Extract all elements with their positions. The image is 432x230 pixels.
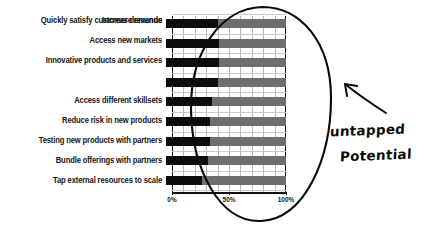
bar-segment-value — [166, 176, 202, 185]
bar-row — [172, 176, 286, 185]
annotation-text-line-2: Potential — [340, 146, 413, 165]
row-separator — [172, 92, 286, 93]
chart-figure: Increase revenue Access new markets Inno… — [0, 0, 432, 230]
row-separator — [172, 171, 286, 172]
category-label: Innovative products and services — [11, 56, 162, 65]
row-separator — [172, 151, 286, 152]
x-axis-tick-label: 100% — [278, 196, 294, 203]
bar-row — [172, 156, 286, 165]
bar-segment-value — [166, 117, 210, 126]
row-separator — [172, 34, 286, 35]
row-separator — [172, 73, 286, 74]
annotation-text-line-1: untapped — [330, 121, 406, 140]
plot-area — [172, 16, 286, 192]
row-separator — [172, 132, 286, 133]
bar-row — [172, 117, 286, 126]
bar-segment-value — [166, 19, 218, 28]
category-axis-labels: Increase revenue Access new markets Inno… — [0, 16, 166, 192]
category-label: Access different skillsets — [11, 96, 162, 105]
row-separator — [172, 112, 286, 113]
row-separator — [172, 53, 286, 54]
bar-row — [172, 97, 286, 106]
bar-segment-value — [166, 78, 218, 87]
category-label: Quickly satisfy customer demands — [11, 16, 162, 25]
x-axis-tick — [229, 192, 230, 195]
hand-drawn-arrow — [345, 84, 386, 113]
row-separator — [172, 14, 286, 15]
bar-row — [172, 19, 286, 28]
x-axis-tick — [286, 192, 287, 195]
bar-row — [172, 39, 286, 48]
bar-segment-value — [166, 39, 219, 48]
category-label: Bundle offerings with partners — [11, 156, 162, 165]
category-label: Reduce risk in new products — [11, 116, 162, 125]
bar-row — [172, 137, 286, 146]
bar-segment-value — [166, 97, 212, 106]
bar-segment-value — [166, 58, 219, 67]
hand-drawn-arrow-head — [345, 84, 357, 96]
category-label: Access new markets — [11, 36, 162, 45]
x-axis-tick-label: 0% — [167, 196, 176, 203]
bar-segment-value — [166, 137, 210, 146]
bar-segment-value — [166, 156, 208, 165]
x-axis-tick — [172, 192, 173, 195]
x-axis-tick-label: 50% — [223, 196, 236, 203]
category-label: Tap external resources to scale — [11, 176, 162, 185]
category-label: Testing new products with partners — [11, 136, 162, 145]
bar-row — [172, 58, 286, 67]
bar-row — [172, 78, 286, 87]
